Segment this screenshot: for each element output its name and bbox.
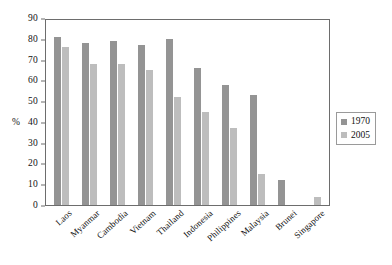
bar-group [299,20,327,205]
x-axis-label-vietnam: Vietnam [128,208,158,236]
y-axis: 9080706050403020100 [0,0,45,206]
bar-group [215,20,243,205]
bar-group [104,20,132,205]
y-tick-label: 90 [28,14,38,24]
y-tick-label: 30 [28,139,38,149]
series-1970-swatch [341,119,347,125]
bar-1970-malaysia [250,95,257,205]
series-2005-swatch [341,132,347,138]
bar-1970-philippines [222,85,229,206]
y-axis-title: % [12,117,20,127]
x-axis-labels: LaosMyanmarCambodiaVietnamThailandIndone… [45,208,330,265]
bar-group [243,20,271,205]
bar-2005-thailand [174,97,181,205]
bar-group [76,20,104,205]
legend-item-1970: 1970 [341,117,370,127]
bar-1970-laos [54,37,61,205]
bar-chart: 9080706050403020100 % LaosMyanmarCambodi… [0,0,392,265]
y-tick-label: 60 [28,77,38,87]
bar-2005-indonesia [202,112,209,206]
bar-2005-malaysia [258,174,265,205]
bar-group [132,20,160,205]
bar-2005-singapore [314,197,321,205]
x-axis-label-cambodia: Cambodia [95,208,130,241]
y-tick-label: 80 [28,35,38,45]
bar-group [188,20,216,205]
y-tick-label: 40 [28,118,38,128]
x-axis-label-malaysia: Malaysia [239,208,271,238]
plot-area [45,19,330,206]
bar-group [160,20,188,205]
legend-item-2005: 2005 [341,131,370,141]
bars-layer [46,20,329,205]
bar-2005-laos [62,47,69,205]
y-tick-label: 20 [28,160,38,170]
x-axis-label-laos: Laos [54,208,74,227]
bar-2005-vietnam [146,70,153,205]
bar-2005-philippines [230,128,237,205]
bar-group [271,20,299,205]
legend-label: 1970 [351,117,370,127]
legend-label: 2005 [351,131,370,141]
bar-1970-vietnam [138,45,145,205]
bar-group [48,20,76,205]
y-tick-label: 50 [28,97,38,107]
bar-1970-myanmar [82,43,89,205]
bar-1970-cambodia [110,41,117,205]
y-tick-label: 70 [28,56,38,66]
y-tick-label: 10 [28,180,38,190]
bar-2005-myanmar [90,64,97,205]
bar-2005-cambodia [118,64,125,205]
bar-1970-brunei [278,180,285,205]
bar-1970-thailand [166,39,173,205]
legend: 19702005 [336,112,376,145]
x-axis-label-singapore: Singapore [292,208,326,240]
bar-1970-indonesia [194,68,201,205]
x-axis-label-brunei: Brunei [273,208,298,232]
y-tick-label: 0 [33,201,38,211]
